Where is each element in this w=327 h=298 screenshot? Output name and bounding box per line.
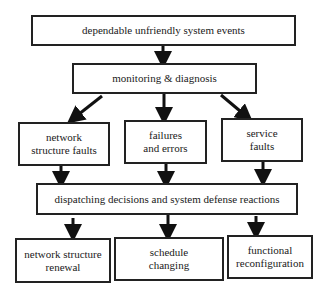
box-dispatching: dispatching decisions and system defense…: [36, 183, 298, 215]
box-label: monitoring & diagnosis: [112, 72, 217, 85]
box-label-line1: schedule: [150, 246, 188, 259]
box-label-line2: faults: [250, 140, 274, 153]
box-label-line2: and errors: [143, 142, 187, 155]
box-label: dependable unfriendly system events: [82, 24, 245, 37]
box-label: dispatching decisions and system defense…: [54, 193, 279, 206]
box-monitoring: monitoring & diagnosis: [72, 63, 257, 94]
box-system-events: dependable unfriendly system events: [31, 15, 296, 46]
box-label-line1: network: [46, 131, 82, 144]
box-network-structure-faults: network structure faults: [18, 122, 110, 166]
box-label-line1: failures: [149, 129, 182, 142]
box-label-line2: renewal: [46, 261, 81, 274]
box-schedule-changing: schedule changing: [114, 237, 224, 281]
box-label-line1: service: [246, 127, 277, 140]
box-label-line2: reconfiguration: [236, 257, 304, 270]
box-label-line2: structure faults: [31, 144, 97, 157]
box-label-line2: changing: [149, 259, 189, 272]
box-functional-reconfiguration: functional reconfiguration: [227, 235, 313, 279]
box-service-faults: service faults: [221, 118, 303, 162]
box-failures-errors: failures and errors: [124, 120, 207, 164]
box-label-line1: network structure: [24, 248, 101, 261]
box-network-structure-renewal: network structure renewal: [15, 238, 111, 283]
box-label-line1: functional: [248, 244, 293, 257]
